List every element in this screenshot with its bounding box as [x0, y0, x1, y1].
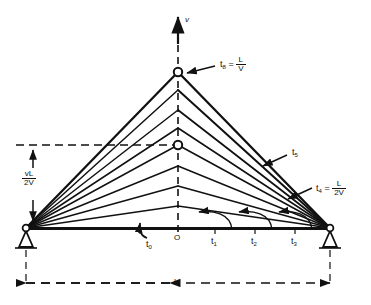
t2-label: t2 [251, 237, 257, 247]
apex-node-circle [174, 68, 182, 76]
t8-label: t8 = L V [220, 56, 246, 73]
v-axis-label: v [185, 16, 189, 24]
left-ray-fan [26, 72, 178, 228]
t0-sub: 0 [149, 244, 152, 250]
middle-node-circle [174, 141, 182, 149]
t5-leader-arrow [263, 155, 287, 166]
t4-sub: 4 [319, 188, 322, 194]
origin-label: O [174, 234, 180, 242]
right-ray-fan [178, 72, 330, 228]
t1-label: t1 [211, 237, 217, 247]
t8-eq: = [228, 59, 233, 69]
t2-sub: 2 [254, 241, 257, 247]
t3-label: t3 [291, 237, 297, 247]
t5-label: t5 [292, 148, 298, 158]
beam-diagram-svg [0, 0, 371, 305]
t0-label: t0 [146, 240, 152, 250]
t4-eq: = [324, 183, 329, 193]
t8-sub: 8 [223, 64, 226, 70]
span-length-label: L [174, 278, 178, 286]
figure-canvas: v t8 = L V t5 t4 = L 2V vL 2V O t0 t1 [0, 0, 371, 305]
t3-sub: 3 [294, 241, 297, 247]
deflection-denominator: 2V [22, 179, 36, 187]
t5-sub: 5 [295, 152, 298, 158]
t4-denominator: 2V [332, 189, 346, 197]
deflection-value-label: vL 2V [22, 170, 36, 187]
t4-label: t4 = L 2V [316, 180, 346, 197]
apex-leader-arrow [187, 66, 215, 73]
t8-denominator: V [236, 65, 245, 73]
t1-sub: 1 [214, 241, 217, 247]
